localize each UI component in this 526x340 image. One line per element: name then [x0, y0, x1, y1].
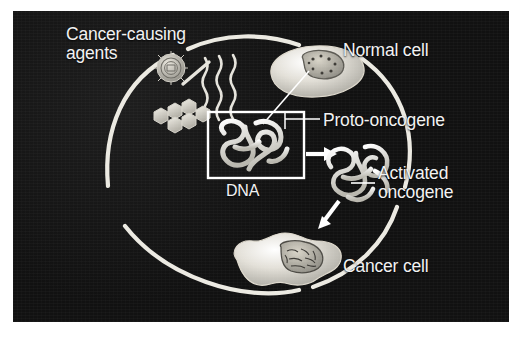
label-activated-oncogene: Activated oncogene: [378, 164, 453, 202]
label-cancer-cell: Cancer cell: [343, 257, 428, 276]
diagram-panel: Cancer-causing agents Normal cell Proto-…: [13, 11, 509, 322]
label-normal-cell: Normal cell: [343, 41, 428, 60]
benzene-ring-cluster-icon: [154, 99, 210, 133]
label-cancer-causing-agents: Cancer-causing agents: [66, 25, 186, 63]
oncogene-to-cancer-cell-arrow: [318, 201, 339, 229]
proto-oncogene-leader-line: [285, 111, 320, 129]
label-dna: DNA: [226, 181, 259, 200]
dna-tangle-icon: [221, 121, 287, 169]
cancer-cell-icon: [234, 233, 341, 285]
figure-container: Cancer-causing agents Normal cell Proto-…: [0, 0, 526, 340]
label-proto-oncogene: Proto-oncogene: [323, 111, 445, 130]
